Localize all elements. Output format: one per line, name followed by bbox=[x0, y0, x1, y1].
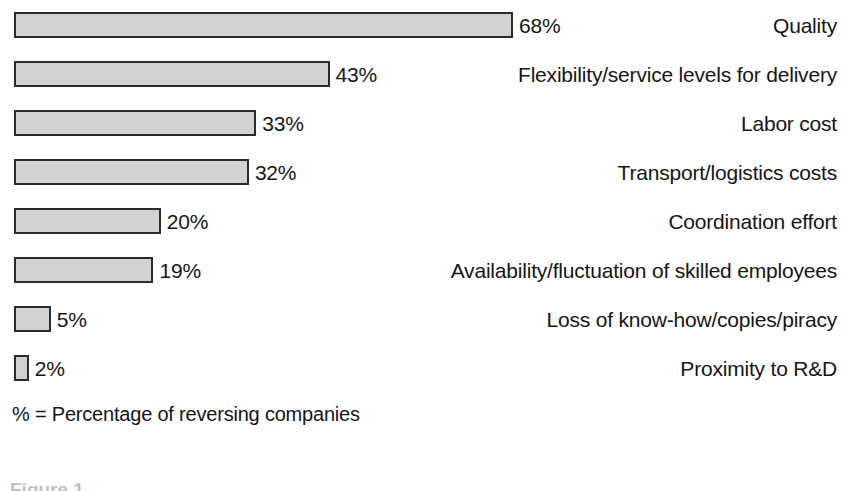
bar-category-label: Flexibility/service levels for delivery bbox=[518, 64, 837, 85]
bar-row: 32%Transport/logistics costs bbox=[0, 159, 847, 185]
bar-track bbox=[14, 12, 513, 38]
bar-track bbox=[14, 306, 51, 332]
bar-row: 2%Proximity to R&D bbox=[0, 355, 847, 381]
bar-value-label: 32% bbox=[255, 162, 296, 183]
bar-category-label: Proximity to R&D bbox=[680, 358, 837, 379]
bar bbox=[14, 12, 513, 38]
bar-track bbox=[14, 257, 153, 283]
bar bbox=[14, 306, 51, 332]
bar bbox=[14, 159, 249, 185]
bar-value-label: 33% bbox=[262, 113, 303, 134]
bar bbox=[14, 257, 153, 283]
figure-caption-partial: Figure 1 bbox=[10, 479, 84, 491]
bar-category-label: Loss of know-how/copies/piracy bbox=[547, 309, 837, 330]
bar-category-label: Coordination effort bbox=[668, 211, 837, 232]
bar-row: 33%Labor cost bbox=[0, 110, 847, 136]
bar-category-label: Quality bbox=[773, 15, 837, 36]
bar-category-label: Transport/logistics costs bbox=[618, 162, 837, 183]
bar-row: 43%Flexibility/service levels for delive… bbox=[0, 61, 847, 87]
bar-value-label: 19% bbox=[159, 260, 200, 281]
bar-row: 5%Loss of know-how/copies/piracy bbox=[0, 306, 847, 332]
bar-category-label: Availability/fluctuation of skilled empl… bbox=[451, 260, 837, 281]
bar-track bbox=[14, 208, 161, 234]
bar bbox=[14, 208, 161, 234]
bar-row: 19%Availability/fluctuation of skilled e… bbox=[0, 257, 847, 283]
chart-footnote: % = Percentage of reversing companies bbox=[12, 404, 360, 424]
bar bbox=[14, 355, 29, 381]
bar-track bbox=[14, 355, 29, 381]
bar-row: 20%Coordination effort bbox=[0, 208, 847, 234]
bar-value-label: 43% bbox=[336, 64, 377, 85]
bar-row: 68%Quality bbox=[0, 12, 847, 38]
bar-value-label: 68% bbox=[519, 15, 560, 36]
bar-value-label: 2% bbox=[35, 358, 65, 379]
bar bbox=[14, 61, 330, 87]
bar-track bbox=[14, 110, 256, 136]
bar-track bbox=[14, 61, 330, 87]
bar-track bbox=[14, 159, 249, 185]
bar bbox=[14, 110, 256, 136]
bar-value-label: 5% bbox=[57, 309, 87, 330]
bar-value-label: 20% bbox=[167, 211, 208, 232]
bar-category-label: Labor cost bbox=[741, 113, 837, 134]
